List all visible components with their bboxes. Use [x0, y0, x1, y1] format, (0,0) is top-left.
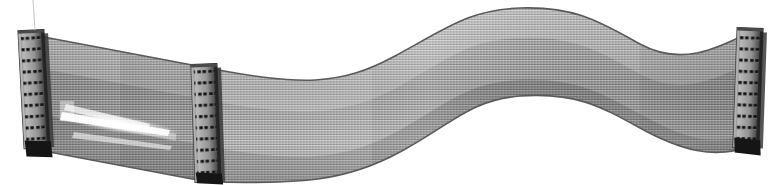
ribbon-cable-image: A flat gray 40-conductor ribbon cable cu…: [0, 0, 776, 185]
connector-right[interactable]: [733, 28, 767, 156]
connector-middle[interactable]: [191, 63, 225, 185]
ribbon-cable-illustration: [0, 0, 776, 185]
connector-left-foot: [25, 139, 53, 158]
connector-middle-foot: [196, 171, 223, 185]
connector-right-foot: [734, 138, 762, 156]
